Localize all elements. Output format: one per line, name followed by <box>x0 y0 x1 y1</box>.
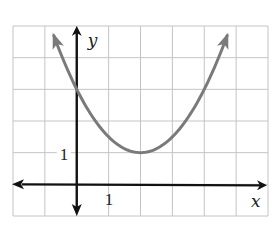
x-tick-label-1: 1 <box>105 190 114 209</box>
x-axis-label: x <box>251 191 261 211</box>
y-tick-label-1: 1 <box>60 145 69 164</box>
parabola-graph: y x 1 1 <box>0 0 279 228</box>
grid <box>13 26 268 216</box>
x-axis <box>22 184 263 185</box>
y-axis-label: y <box>87 30 98 50</box>
